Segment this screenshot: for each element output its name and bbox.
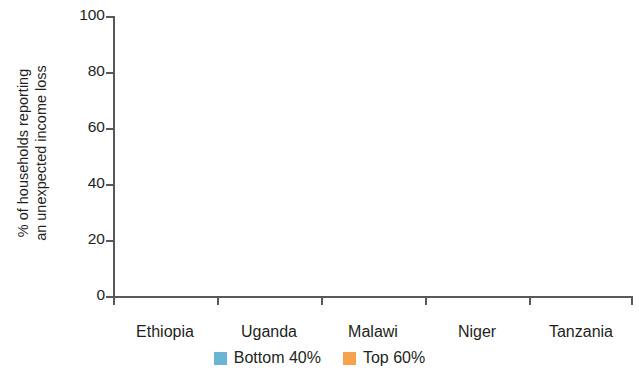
x-tick-mark-3: [425, 297, 427, 305]
x-axis-line: [113, 296, 633, 298]
chart-legend: Bottom 40% Top 60%: [0, 349, 639, 367]
legend-swatch-icon-bottom-40: [214, 352, 227, 365]
legend-label-bottom-40: Bottom 40%: [234, 349, 321, 367]
x-tick-mark-0: [113, 297, 115, 305]
y-tick-mark-100: [106, 16, 113, 18]
y-axis-title: % of households reporting an unexpected …: [0, 0, 64, 305]
y-axis-title-line2: an unexpected income loss: [32, 65, 50, 241]
legend-swatch-icon-top-60: [343, 352, 356, 365]
bar-chart: % of households reporting an unexpected …: [0, 0, 639, 375]
y-tick-mark-40: [106, 184, 113, 186]
x-tick-mark-1: [217, 297, 219, 305]
y-tick-mark-60: [106, 128, 113, 130]
y-tick-label-80: 80: [61, 62, 105, 80]
y-tick-label-40: 40: [61, 174, 105, 192]
x-tick-mark-2: [321, 297, 323, 305]
y-tick-mark-20: [106, 240, 113, 242]
x-category-label-malawi: Malawi: [321, 323, 425, 341]
y-tick-mark-80: [106, 72, 113, 74]
plot-area: 100 80 60 40 20 0 Ethiopia Uganda Malawi…: [113, 16, 633, 296]
y-tick-label-20: 20: [61, 230, 105, 248]
y-tick-label-100: 100: [61, 6, 105, 24]
legend-item-bottom-40: Bottom 40%: [214, 349, 321, 367]
x-category-label-niger: Niger: [425, 323, 529, 341]
y-tick-mark-0: [106, 296, 113, 298]
y-axis-title-line1: % of households reporting: [14, 65, 32, 241]
legend-item-top-60: Top 60%: [343, 349, 425, 367]
y-tick-label-0: 0: [61, 286, 105, 304]
y-tick-label-60: 60: [61, 118, 105, 136]
legend-label-top-60: Top 60%: [363, 349, 425, 367]
x-category-label-uganda: Uganda: [217, 323, 321, 341]
x-category-label-ethiopia: Ethiopia: [113, 323, 217, 341]
y-axis-line: [113, 16, 115, 297]
x-tick-mark-5: [631, 297, 633, 305]
x-tick-mark-4: [529, 297, 531, 305]
x-category-label-tanzania: Tanzania: [529, 323, 633, 341]
